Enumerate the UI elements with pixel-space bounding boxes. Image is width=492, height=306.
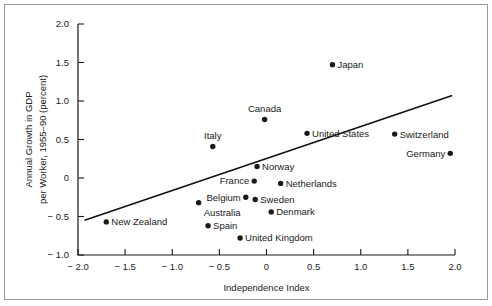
data-point-marker	[254, 164, 259, 169]
x-tick-label: − 2.0	[67, 261, 88, 272]
data-point-marker	[330, 62, 335, 67]
x-tick-label: − 1.0	[162, 261, 183, 272]
x-tick-label: 0	[264, 261, 269, 272]
data-point: Italy	[204, 130, 222, 149]
data-point: Netherlands	[278, 178, 337, 189]
y-axis-title-line1: Annual Growth in GDP	[23, 91, 34, 187]
data-point: Belgium	[206, 192, 248, 203]
data-point-label: Spain	[213, 220, 237, 231]
y-tick-label: − 1.0	[48, 249, 69, 260]
data-point-marker	[269, 209, 274, 214]
data-point-marker	[252, 178, 257, 183]
data-point-marker	[210, 144, 215, 149]
data-point-marker	[304, 131, 309, 136]
x-tick-label: 1.5	[401, 261, 414, 272]
data-point: Switzerland	[392, 129, 449, 140]
y-tick-label: − 0.5	[48, 211, 69, 222]
data-point-marker	[278, 181, 283, 186]
data-point: France	[220, 175, 257, 186]
data-point-marker	[262, 117, 267, 122]
figure-container: 2.01.51.00.50− 0.5− 1.0− 2.0− 1.5− 1.0− …	[0, 0, 492, 306]
x-tick-label: 1.0	[354, 261, 367, 272]
data-point: Japan	[330, 59, 364, 70]
data-point: Germany	[406, 148, 453, 159]
data-point-label: United Kingdom	[245, 232, 313, 243]
y-tick-label: 2.0	[56, 18, 69, 29]
data-point-label: Belgium	[206, 192, 240, 203]
data-point: Canada	[248, 103, 282, 122]
data-point-label: Switzerland	[400, 129, 449, 140]
scatter-plot: 2.01.51.00.50− 0.5− 1.0− 2.0− 1.5− 1.0− …	[0, 0, 492, 306]
data-point-label: Canada	[248, 103, 282, 114]
data-point-marker	[252, 197, 257, 202]
data-point-label: Australia	[204, 207, 242, 218]
data-point: New Zealand	[104, 216, 168, 227]
data-point: Denmark	[269, 206, 315, 217]
data-point-label: Norway	[262, 161, 294, 172]
x-tick-label: − 0.5	[209, 261, 230, 272]
data-point-label: Sweden	[260, 194, 294, 205]
data-point-marker	[196, 200, 201, 205]
y-tick-label: 1.5	[56, 57, 69, 68]
data-point-label: Denmark	[276, 206, 315, 217]
data-point-label: Germany	[406, 148, 445, 159]
data-point: United Kingdom	[237, 232, 312, 243]
y-tick-label: 1.0	[56, 95, 69, 106]
data-point: Sweden	[252, 194, 294, 205]
chart-svg: 2.01.51.00.50− 0.5− 1.0− 2.0− 1.5− 1.0− …	[0, 0, 492, 306]
y-tick-label: 0.5	[56, 134, 69, 145]
data-point-label: New Zealand	[111, 216, 167, 227]
data-point-label: United States	[312, 128, 369, 139]
data-point: United States	[304, 128, 369, 139]
x-axis-title: Independence Index	[223, 282, 309, 293]
x-tick-label: 0.5	[307, 261, 320, 272]
x-tick-label: 2.0	[448, 261, 461, 272]
y-tick-label: 0	[64, 172, 69, 183]
data-point: Norway	[254, 161, 294, 172]
data-point-label: France	[220, 175, 250, 186]
y-axis-title-line2: per Worker, 1955–90 (percent)	[37, 75, 48, 204]
data-point-marker	[205, 223, 210, 228]
data-point-label: Italy	[204, 130, 222, 141]
data-point-label: Netherlands	[286, 178, 337, 189]
data-point-marker	[104, 219, 109, 224]
data-point: Spain	[205, 220, 237, 231]
data-point-label: Japan	[337, 59, 363, 70]
data-point-marker	[448, 151, 453, 156]
data-point-marker	[237, 235, 242, 240]
data-point-marker	[392, 131, 397, 136]
x-tick-label: − 1.5	[114, 261, 135, 272]
data-point-marker	[243, 195, 248, 200]
